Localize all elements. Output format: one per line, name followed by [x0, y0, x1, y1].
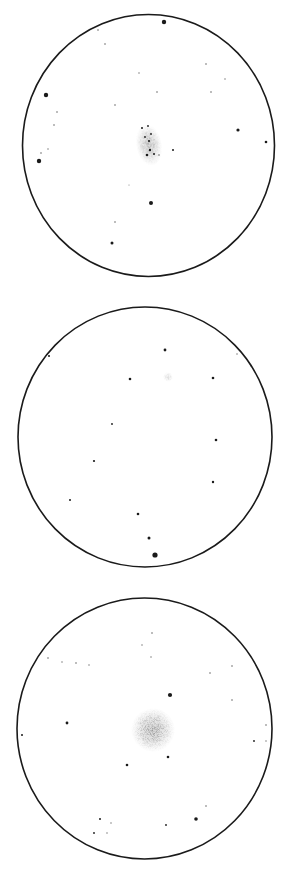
star	[194, 817, 198, 821]
eyepiece-field-3	[17, 598, 272, 859]
star	[141, 644, 142, 645]
star	[231, 699, 233, 701]
star	[151, 632, 153, 634]
globular-cluster-glow	[131, 708, 175, 752]
star	[40, 152, 42, 154]
star	[236, 353, 237, 354]
star	[75, 662, 77, 664]
nebula	[163, 372, 173, 382]
star	[209, 672, 211, 674]
star	[212, 481, 214, 483]
star	[253, 740, 255, 742]
star	[126, 764, 129, 767]
star	[93, 832, 95, 834]
star	[48, 355, 50, 357]
star	[168, 693, 172, 697]
star	[114, 104, 116, 106]
star	[165, 824, 167, 826]
star	[265, 141, 268, 144]
star	[144, 136, 146, 138]
star	[149, 201, 153, 205]
star	[150, 133, 152, 135]
star	[210, 91, 212, 93]
star	[148, 537, 151, 540]
eyepiece-field-2	[18, 307, 272, 567]
star	[61, 661, 62, 662]
star	[149, 149, 151, 151]
star	[53, 124, 55, 126]
star	[114, 221, 116, 223]
star	[150, 656, 151, 657]
star	[104, 43, 106, 45]
star	[152, 552, 157, 557]
star	[138, 72, 139, 73]
star	[162, 20, 166, 24]
star	[88, 664, 89, 665]
star	[56, 111, 58, 113]
star	[167, 756, 170, 759]
star	[158, 154, 160, 156]
sketch-canvas	[0, 0, 292, 873]
star	[47, 148, 48, 149]
star	[156, 91, 158, 93]
star	[93, 460, 95, 462]
nebula	[133, 122, 166, 168]
star	[21, 734, 23, 736]
star-field	[48, 349, 252, 558]
star	[44, 93, 48, 97]
field-of-view-circle	[18, 307, 272, 567]
star	[164, 349, 167, 352]
star	[153, 153, 155, 155]
star	[265, 740, 266, 741]
star	[236, 128, 239, 131]
star	[111, 242, 114, 245]
star	[110, 822, 111, 823]
star	[69, 499, 71, 501]
star	[148, 140, 150, 142]
star	[146, 154, 149, 157]
star	[205, 805, 207, 807]
star	[97, 29, 99, 31]
star	[99, 818, 101, 820]
star	[111, 423, 113, 425]
star	[37, 159, 41, 163]
star	[231, 665, 233, 667]
star	[66, 722, 69, 725]
star	[129, 185, 130, 186]
star	[147, 125, 149, 127]
star	[141, 127, 143, 129]
nebula-glow	[163, 372, 173, 382]
star	[265, 724, 267, 726]
star	[106, 832, 107, 833]
star	[224, 78, 225, 79]
star	[47, 657, 49, 659]
eyepiece-field-1	[23, 15, 275, 277]
star	[129, 378, 132, 381]
star	[250, 365, 251, 366]
star	[212, 377, 215, 380]
nebula-glow	[133, 122, 166, 168]
nebula	[131, 708, 175, 752]
star	[172, 149, 174, 151]
star	[205, 63, 207, 65]
star	[137, 513, 140, 516]
star	[215, 439, 218, 442]
